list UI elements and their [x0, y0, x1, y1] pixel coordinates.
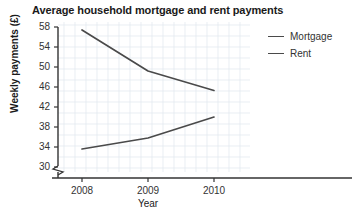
y-tick-label: 30 — [24, 162, 50, 172]
y-tick-label: 50 — [24, 62, 50, 72]
y-tick-label: 38 — [24, 122, 50, 132]
legend-label: Rent — [290, 48, 311, 59]
chart-legend: MortgageRent — [268, 28, 332, 62]
x-tick-label: 2009 — [123, 186, 173, 196]
grid-lines — [58, 22, 250, 172]
legend-item-mortgage[interactable]: Mortgage — [268, 28, 332, 45]
legend-line-icon — [268, 53, 284, 54]
axis-ticks — [54, 27, 214, 182]
x-axis-title: Year — [82, 198, 214, 209]
y-tick-label: 54 — [24, 42, 50, 52]
legend-item-rent[interactable]: Rent — [268, 45, 332, 62]
data-series — [82, 30, 214, 149]
series-line-mortgage — [82, 30, 214, 91]
x-tick-label: 2008 — [57, 186, 107, 196]
y-tick-label: 46 — [24, 82, 50, 92]
y-tick-label: 34 — [24, 142, 50, 152]
y-tick-label: 42 — [24, 102, 50, 112]
legend-line-icon — [268, 36, 284, 37]
line-chart: Average household mortgage and rent paym… — [0, 0, 356, 220]
chart-title: Average household mortgage and rent paym… — [32, 4, 283, 16]
y-axis-title: Weekly payments (£) — [9, 4, 20, 124]
series-line-rent — [82, 117, 214, 149]
y-tick-label: 58 — [24, 22, 50, 32]
legend-label: Mortgage — [290, 31, 332, 42]
x-tick-label: 2010 — [189, 186, 239, 196]
